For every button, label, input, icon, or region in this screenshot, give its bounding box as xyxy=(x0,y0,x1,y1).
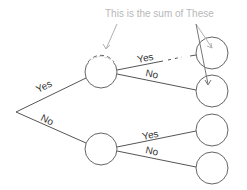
label-lower-no: No xyxy=(145,144,160,158)
decision-tree-diagram: Yes No Yes No Yes No This is the sum of … xyxy=(0,0,247,190)
node-lower-mid xyxy=(85,133,117,165)
label-root-yes: Yes xyxy=(34,78,53,95)
label-root-no: No xyxy=(39,112,56,128)
label-upper-no: No xyxy=(145,67,160,81)
annotation-text: This is the sum of These xyxy=(105,8,214,19)
annotation-arrow-to-upper-mid xyxy=(106,24,117,49)
arrow-head-icon xyxy=(103,44,110,49)
node-leaf-2 xyxy=(196,75,228,107)
node-leaf-4 xyxy=(196,152,228,184)
edge-upper-yes-end xyxy=(190,55,196,56)
node-leaf-1 xyxy=(196,37,228,69)
label-lower-yes: Yes xyxy=(141,128,159,142)
edge-upper-yes-dashed xyxy=(168,57,182,60)
node-leaf-3 xyxy=(196,114,228,146)
